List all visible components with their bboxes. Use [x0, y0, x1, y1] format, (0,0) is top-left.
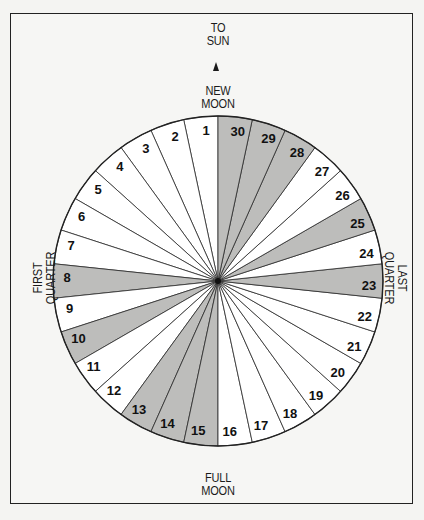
sun-direction-arrow-icon — [213, 62, 219, 71]
full-moon-label: FULL MOON — [187, 472, 249, 498]
day-number-7: 7 — [68, 238, 75, 253]
day-number-16: 16 — [223, 424, 237, 439]
day-number-8: 8 — [63, 270, 70, 285]
day-number-18: 18 — [283, 406, 297, 421]
day-number-21: 21 — [347, 339, 361, 354]
to-sun-label: TO SUN — [192, 22, 245, 48]
day-number-28: 28 — [290, 145, 304, 160]
day-number-13: 13 — [132, 402, 146, 417]
full-moon-line2: MOON — [187, 485, 249, 498]
day-number-20: 20 — [331, 365, 345, 380]
day-number-1: 1 — [203, 123, 210, 138]
first-quarter-line2: QUARTER — [45, 238, 58, 317]
day-number-2: 2 — [171, 129, 178, 144]
day-number-22: 22 — [358, 309, 372, 324]
day-number-23: 23 — [362, 278, 376, 293]
last-quarter-line2: QUARTER — [382, 238, 395, 317]
day-number-3: 3 — [142, 141, 149, 156]
day-number-19: 19 — [309, 388, 323, 403]
day-number-17: 17 — [254, 418, 268, 433]
day-number-27: 27 — [315, 164, 329, 179]
day-number-14: 14 — [160, 416, 175, 431]
to-sun-line2: SUN — [192, 35, 245, 48]
new-moon-label: NEW MOON — [187, 85, 249, 111]
day-number-5: 5 — [95, 182, 102, 197]
day-number-24: 24 — [359, 246, 374, 261]
new-moon-line2: MOON — [187, 98, 249, 111]
day-number-9: 9 — [66, 301, 73, 316]
day-number-12: 12 — [107, 383, 121, 398]
last-quarter-line1: LAST — [395, 238, 408, 317]
day-number-11: 11 — [87, 359, 101, 374]
day-number-10: 10 — [71, 331, 85, 346]
day-number-30: 30 — [230, 124, 244, 139]
day-number-29: 29 — [261, 131, 275, 146]
day-number-25: 25 — [350, 216, 364, 231]
lunar-day-dial: 1234567891011121314151617181920212223242… — [0, 0, 424, 520]
day-number-26: 26 — [335, 188, 349, 203]
day-number-6: 6 — [78, 209, 85, 224]
day-number-4: 4 — [116, 159, 124, 174]
first-quarter-label: FIRST QUARTER — [32, 238, 58, 317]
day-number-15: 15 — [191, 423, 205, 438]
center-hub — [215, 278, 221, 284]
last-quarter-label: LAST QUARTER — [382, 238, 408, 317]
